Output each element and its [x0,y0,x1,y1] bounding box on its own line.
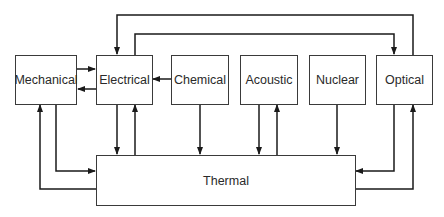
edge-mechanical-to-thermal [56,104,95,171]
node-mechanical: Mechanical [15,55,77,105]
node-thermal: Thermal [96,155,356,206]
edge-electrical-to-optical [135,34,394,55]
edge-thermal-to-mechanical [40,105,96,189]
node-acoustic-label: Acoustic [245,73,292,87]
node-electrical-label: Electrical [99,73,150,87]
node-acoustic: Acoustic [240,55,298,105]
node-chemical-label: Chemical [174,73,226,87]
edge-thermal-to-optical [355,105,413,189]
node-optical: Optical [376,55,433,105]
node-mechanical-label: Mechanical [14,73,77,87]
node-optical-label: Optical [385,73,424,87]
node-nuclear: Nuclear [309,55,366,105]
node-electrical: Electrical [96,55,153,105]
edge-optical-to-thermal [356,104,394,171]
edge-optical-to-electrical [117,15,413,55]
node-chemical: Chemical [171,55,229,105]
energy-conversion-diagram: Mechanical Electrical Chemical Acoustic … [0,0,444,217]
node-thermal-label: Thermal [203,174,249,188]
node-nuclear-label: Nuclear [316,73,359,87]
